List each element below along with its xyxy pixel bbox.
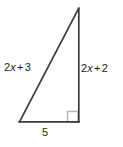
label-hypotenuse-constant: 3 <box>25 61 31 73</box>
label-vertical-leg-operator: + <box>93 62 102 74</box>
label-base-value: 5 <box>42 126 48 138</box>
label-base: 5 <box>42 127 48 138</box>
label-hypotenuse-operator: + <box>16 61 25 73</box>
label-hypotenuse: 2x+3 <box>4 62 31 73</box>
label-vertical-leg-constant: 2 <box>102 62 108 74</box>
geometry-diagram: 2x+3 2x+2 5 <box>0 0 123 147</box>
label-vertical-leg: 2x+2 <box>81 63 108 74</box>
